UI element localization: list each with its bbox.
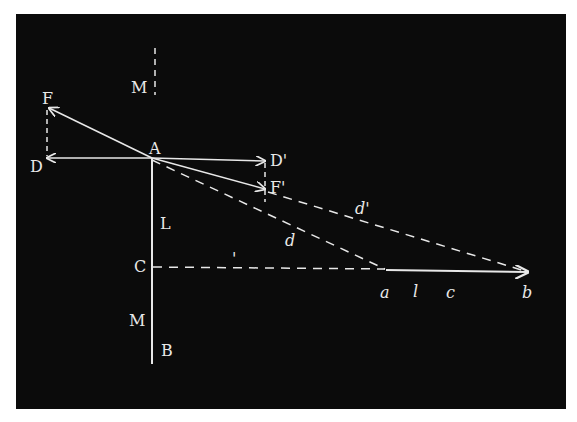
label-A: A bbox=[148, 139, 161, 158]
label-D-prime: D' bbox=[270, 151, 287, 170]
label-D: D bbox=[30, 157, 43, 176]
optics-diagram: M F A D D' F' L C M B d d' ' a l c b bbox=[0, 0, 577, 422]
arrow-a-to-b bbox=[386, 270, 528, 272]
label-tick-mark: ' bbox=[232, 249, 236, 268]
label-C: C bbox=[134, 257, 146, 276]
label-a: a bbox=[380, 283, 390, 302]
label-M-bottom: M bbox=[129, 311, 145, 330]
label-b: b bbox=[522, 283, 532, 302]
label-F-prime: F' bbox=[270, 178, 286, 197]
arrow-A-to-F-prime bbox=[152, 158, 265, 189]
dashed-line-d bbox=[152, 160, 385, 269]
arrow-A-to-F bbox=[49, 108, 152, 158]
label-c: c bbox=[446, 283, 455, 302]
arrow-A-to-D-prime bbox=[152, 158, 265, 161]
label-L: L bbox=[160, 214, 171, 233]
dashed-line-d-prime bbox=[268, 192, 528, 272]
label-M-top: M bbox=[131, 78, 147, 97]
label-F: F bbox=[42, 89, 53, 108]
label-l: l bbox=[413, 282, 418, 301]
label-d-prime: d' bbox=[355, 199, 370, 218]
dashed-line-C-a bbox=[153, 267, 385, 269]
label-d: d bbox=[285, 231, 295, 250]
label-B: B bbox=[161, 341, 173, 360]
